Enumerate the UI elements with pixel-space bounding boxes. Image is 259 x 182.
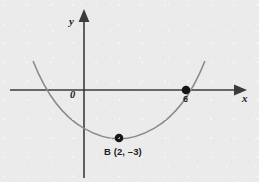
x-axis-label: x <box>242 93 248 104</box>
origin-label: 0 <box>70 90 75 101</box>
point-vertex-b <box>115 134 124 143</box>
vertex-point-label: B (2, –3) <box>104 147 142 157</box>
y-axis-label: y <box>69 16 74 27</box>
graph-figure: y x 0 6 B (2, –3) <box>0 0 259 182</box>
parabola-curve <box>33 62 204 139</box>
y-axis-arrow-icon <box>79 9 90 22</box>
x-intercept-label: 6 <box>183 94 188 104</box>
